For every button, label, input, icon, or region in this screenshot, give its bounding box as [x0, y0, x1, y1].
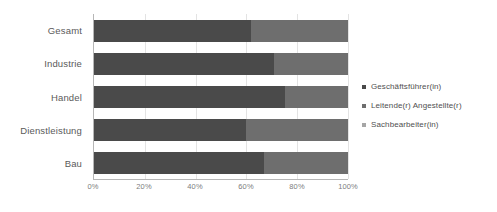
bar-segment[interactable]: [94, 152, 264, 174]
bar-row: [94, 86, 348, 108]
category-label-gesamt: Gesamt: [0, 14, 88, 47]
category-label-handel: Handel: [0, 80, 88, 113]
bar-segment[interactable]: [264, 152, 348, 174]
stacked-bar-chart: Gesamt Industrie Handel Dienstleistung B…: [0, 0, 497, 212]
plot-area: [93, 14, 348, 180]
category-label-bau: Bau: [0, 147, 88, 180]
category-label-text: Dienstleistung: [20, 125, 82, 136]
legend-item-label: Sachbearbeiter(in): [371, 120, 439, 129]
bar-segment[interactable]: [94, 86, 285, 108]
legend-item-label: Geschäftsführer(in): [371, 82, 441, 91]
bar-segment[interactable]: [274, 53, 348, 75]
value-tick-label: 60%: [238, 182, 253, 191]
legend-swatch-icon: [362, 104, 366, 108]
bar-segment[interactable]: [94, 20, 251, 42]
value-tick-label: 0%: [87, 182, 98, 191]
legend-item-sachbearbeiter[interactable]: Sachbearbeiter(in): [362, 120, 497, 129]
legend-item-geschaeftsfuehrer[interactable]: Geschäftsführer(in): [362, 82, 497, 91]
gridline: [348, 14, 349, 179]
bar-segment[interactable]: [246, 119, 348, 141]
bar-row: [94, 119, 348, 141]
legend-item-label: Leitende(r) Angestellte(r): [371, 101, 462, 110]
chart-legend: Geschäftsführer(in) Leitende(r) Angestel…: [362, 82, 497, 129]
bar-segment[interactable]: [285, 86, 349, 108]
bar-segment[interactable]: [251, 20, 348, 42]
bar-row: [94, 20, 348, 42]
category-label-dienstleistung: Dienstleistung: [0, 114, 88, 147]
value-tick-label: 40%: [187, 182, 202, 191]
bar-segment[interactable]: [94, 119, 246, 141]
legend-swatch-icon: [362, 123, 366, 127]
category-label-text: Handel: [51, 92, 82, 103]
bar-segment[interactable]: [94, 53, 274, 75]
legend-swatch-icon: [362, 85, 366, 89]
legend-item-leitende-angestellte[interactable]: Leitende(r) Angestellte(r): [362, 101, 497, 110]
category-label-text: Bau: [65, 158, 82, 169]
bar-row: [94, 152, 348, 174]
category-label-text: Industrie: [44, 58, 82, 69]
bar-row: [94, 53, 348, 75]
category-label-industrie: Industrie: [0, 47, 88, 80]
category-axis: Gesamt Industrie Handel Dienstleistung B…: [0, 14, 88, 180]
bar-group: [94, 14, 348, 179]
value-axis: 0%20%40%60%80%100%: [93, 182, 348, 198]
value-tick-label: 100%: [338, 182, 358, 191]
value-tick-label: 80%: [289, 182, 304, 191]
category-label-text: Gesamt: [48, 25, 82, 36]
value-tick-label: 20%: [136, 182, 151, 191]
